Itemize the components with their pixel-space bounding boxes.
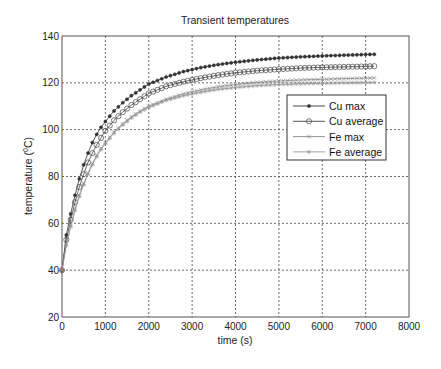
legend: Cu maxCu averageFe maxFe average [287,95,386,160]
series-cu-max [60,53,376,272]
y-tick-label: 140 [42,31,59,42]
legend-label: Cu average [329,115,383,127]
y-tick-label: 100 [42,124,59,135]
x-tick-label: 1000 [94,321,117,332]
y-tick-label: 60 [48,218,60,229]
y-tick-label: 120 [42,77,59,88]
x-tick-label: 5000 [268,321,291,332]
x-tick-label: 7000 [355,321,378,332]
x-axis-label: time (s) [218,334,253,346]
y-axis-ticks: 20406080100120140 [42,31,59,323]
legend-label: Fe average [329,146,382,158]
y-axis-label: temperature (0C) [22,137,34,215]
x-axis-ticks: 010002000300040005000600070008000 [59,321,420,332]
chart-title: Transient temperatures [181,14,289,26]
y-tick-label: 20 [48,312,60,323]
x-tick-label: 4000 [224,321,247,332]
x-tick-label: 6000 [311,321,334,332]
x-tick-label: 2000 [138,321,161,332]
legend-label: Fe max [329,131,365,143]
line-chart: 010002000300040005000600070008000 204060… [0,0,441,369]
y-tick-label: 80 [48,171,60,182]
x-tick-label: 3000 [181,321,204,332]
series-group [59,53,377,273]
y-tick-label: 40 [48,265,60,276]
legend-label: Cu max [329,100,366,112]
x-tick-label: 8000 [398,321,421,332]
x-tick-label: 0 [59,321,65,332]
